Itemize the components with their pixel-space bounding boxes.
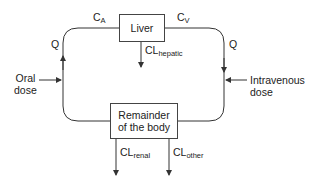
flow-q-right-label: Q: [229, 38, 237, 50]
remainder-label-line2: of the body: [118, 121, 170, 133]
liver-box: Liver: [119, 14, 165, 42]
oral-dose-label: Oral dose: [14, 72, 37, 96]
remainder-box: Remainder of the body: [110, 103, 178, 139]
iv-dose-label: Intravenous dose: [250, 74, 305, 98]
hepatic-clearance-label: CLhepatic: [145, 44, 183, 60]
arterial-concentration-label: CA: [93, 11, 106, 27]
renal-clearance-label: CLrenal: [120, 146, 150, 162]
flow-q-left-label: Q: [51, 38, 59, 50]
venous-concentration-label: CV: [177, 11, 190, 27]
remainder-label-line1: Remainder: [118, 109, 169, 121]
liver-label: Liver: [131, 22, 154, 34]
other-clearance-label: CLother: [173, 146, 204, 162]
